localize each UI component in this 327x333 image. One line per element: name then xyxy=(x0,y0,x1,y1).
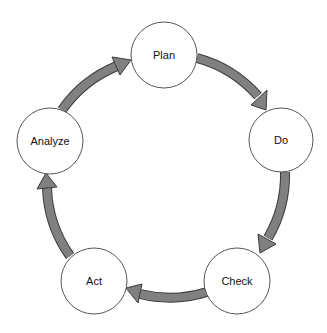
node-analyze: Analyze xyxy=(17,108,83,174)
arrow-check-to-act xyxy=(126,284,207,303)
arrowhead-icon xyxy=(37,173,57,189)
node-label: Do xyxy=(274,134,288,146)
node-plan: Plan xyxy=(131,22,197,88)
node-act: Act xyxy=(61,248,127,314)
node-label: Check xyxy=(221,275,253,287)
cycle-diagram: Plan Do Check Act Analyze xyxy=(0,0,327,333)
node-label: Plan xyxy=(153,49,175,61)
node-check: Check xyxy=(204,248,270,314)
node-label: Act xyxy=(86,275,102,287)
arrow-plan-to-do xyxy=(197,58,267,110)
arrow-analyze-to-plan xyxy=(62,57,131,110)
arrow-do-to-check xyxy=(258,172,285,253)
node-label: Analyze xyxy=(30,135,69,147)
arrow-act-to-analyze xyxy=(37,173,70,256)
node-do: Do xyxy=(249,108,313,172)
arrowhead-icon xyxy=(126,284,142,303)
